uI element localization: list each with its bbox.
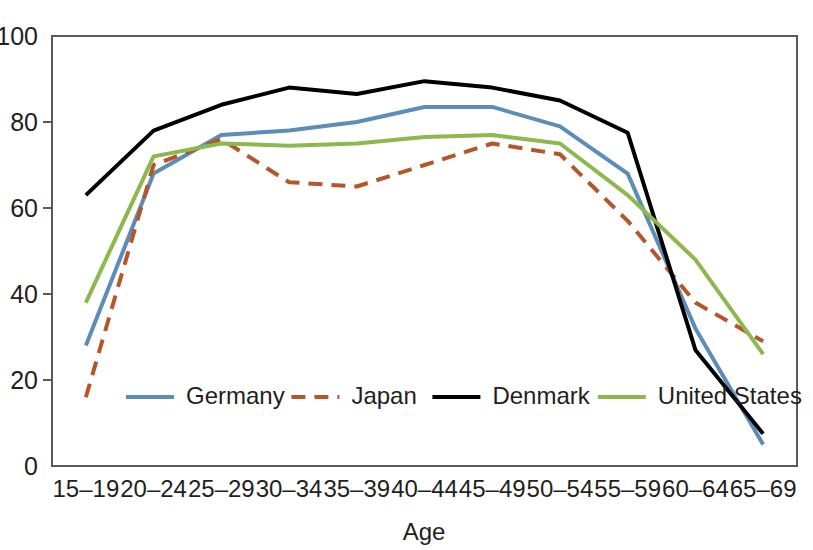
x-tick-label: 30–34 [256, 475, 323, 502]
chart-canvas: 020406080100 15–1920–2425–2930–3435–3940… [0, 0, 813, 550]
y-tick-label: 0 [24, 452, 38, 480]
x-tick-label: 20–24 [120, 475, 187, 502]
y-tick-label: 60 [10, 194, 38, 222]
y-tick-label: 100 [0, 22, 38, 50]
x-tick-label: 60–64 [662, 475, 729, 502]
x-tick-label: 35–39 [323, 475, 390, 502]
x-axis-tick-labels: 15–1920–2425–2930–3435–3940–4445–4950–54… [52, 475, 796, 502]
x-tick-label: 55–59 [594, 475, 661, 502]
x-tick-label: 45–49 [459, 475, 526, 502]
x-tick-label: 15–19 [52, 475, 119, 502]
legend-label: Denmark [492, 382, 590, 409]
line-chart: 020406080100 15–1920–2425–2930–3435–3940… [0, 0, 813, 550]
x-tick-label: 65–69 [730, 475, 797, 502]
y-tick-label: 20 [10, 366, 38, 394]
legend-label: United States [658, 382, 802, 409]
x-axis-title: Age [403, 518, 446, 545]
y-tick-label: 80 [10, 108, 38, 136]
x-tick-label: 50–54 [527, 475, 594, 502]
x-tick-label: 40–44 [391, 475, 458, 502]
y-tick-label: 40 [10, 280, 38, 308]
legend-label: Japan [351, 382, 416, 409]
x-tick-label: 25–29 [188, 475, 255, 502]
legend-label: Germany [186, 382, 285, 409]
